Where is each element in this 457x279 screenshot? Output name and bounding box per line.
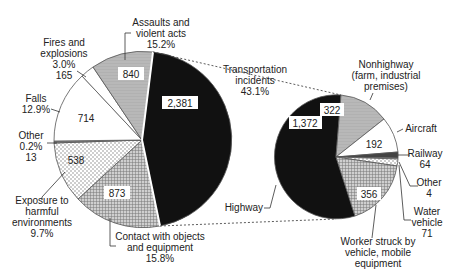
label-railway: Railway64 [407,148,442,170]
label-exposure: Exposure toharmfulenvironments9.7% [12,195,72,239]
label-worker-struck: Worker struck byvehicle, mobileequipment [341,236,416,269]
label-water: Watervehicle71 [411,206,443,239]
label-falls: Falls12.9% [22,93,50,115]
label-other-left: Other0.2%13 [18,130,44,163]
value-356: 356 [361,189,378,200]
label-contact: Contact with objectsand equipment15.8% [115,231,205,264]
label-transportation: Transportationincidents43.1% [223,64,287,97]
label-other-right: Other4 [416,177,442,199]
value-714: 714 [78,113,95,124]
pie-chart-figure: 840 2,381 714 538 873 1,372 322 192 356 … [0,0,457,279]
label-aircraft: Aircraft [405,123,437,134]
value-538: 538 [68,155,85,166]
label-assaults: Assaults andviolent acts15.2% [132,17,189,50]
label-nonhighway: Nonhighway(farm, industrialpremises) [352,59,421,92]
value-2381: 2,381 [167,98,192,109]
label-fires: Fires andexplosions3.0%165 [40,37,87,81]
value-840: 840 [123,69,140,80]
value-1372: 1,372 [292,118,317,129]
connector-bottom [160,219,336,226]
value-873: 873 [109,188,126,199]
value-322: 322 [324,105,341,116]
label-highway: Highway [225,202,263,213]
value-192: 192 [366,139,383,150]
